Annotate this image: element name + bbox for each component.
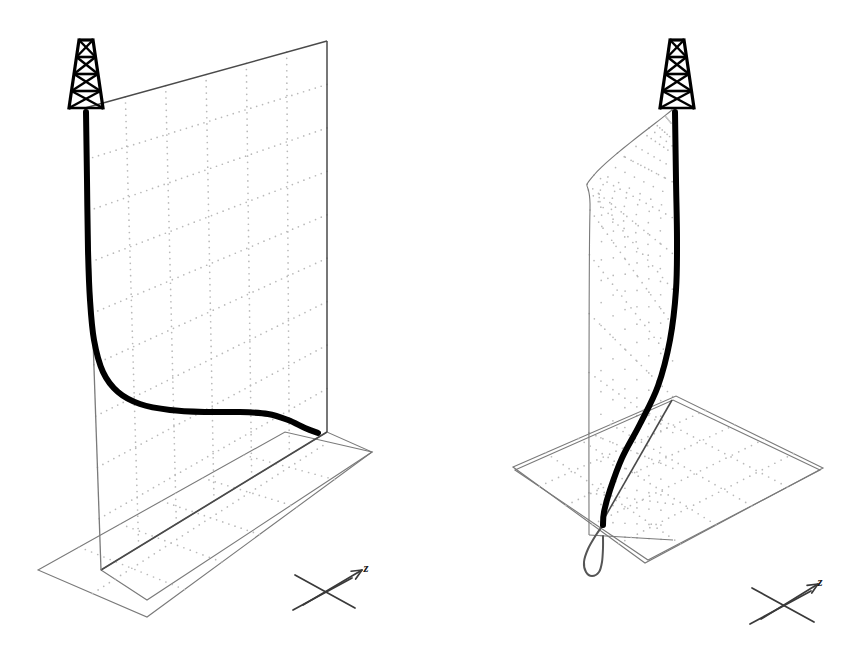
grid-dot (613, 257, 615, 259)
grid-dot (639, 199, 641, 201)
grid-dot (178, 325, 180, 327)
grid-dot (628, 434, 630, 436)
grid-dot (286, 76, 288, 78)
grid-dot (207, 154, 209, 156)
grid-dot (755, 472, 757, 474)
grid-dot (94, 208, 96, 210)
grid-dot (168, 208, 170, 210)
grid-dot (757, 442, 759, 444)
grid-dot (580, 476, 582, 478)
grid-dot (103, 556, 105, 558)
grid-dot (277, 500, 279, 502)
grid-dot (253, 532, 255, 534)
grid-dot (134, 429, 136, 431)
grid-dot (165, 110, 167, 112)
grid-dot (264, 286, 266, 288)
grid-dot (168, 429, 170, 431)
grid-dot (591, 524, 593, 526)
grid-dot (127, 176, 129, 178)
grid-dot (663, 146, 665, 148)
grid-dot (146, 190, 148, 192)
grid-dot (669, 136, 671, 138)
grid-dot (706, 467, 708, 469)
grid-dot (612, 420, 614, 422)
grid-dot (288, 312, 290, 314)
grid-dot (145, 140, 147, 142)
grid-dot (209, 253, 211, 255)
grid-dot (647, 254, 649, 256)
grid-dot (600, 302, 602, 304)
grid-dot (648, 291, 650, 293)
grid-dot (171, 584, 173, 586)
grid-dot (646, 370, 648, 372)
grid-dot (146, 440, 148, 442)
grid-dot (616, 427, 618, 429)
grid-dot (328, 441, 330, 443)
grid-dot (252, 291, 254, 293)
grid-dot (249, 347, 251, 349)
grid-dot (243, 495, 245, 497)
grid-dot (643, 229, 645, 231)
grid-dot (286, 58, 288, 60)
grid-dot (173, 426, 175, 428)
grid-dot (624, 540, 626, 542)
grid-dot (150, 138, 152, 140)
grid-dot (163, 184, 165, 186)
grid-dot (268, 193, 270, 195)
grid-dot (293, 362, 295, 364)
grid-dot (644, 167, 646, 169)
grid-dot (266, 331, 268, 333)
grid-dot (690, 445, 692, 447)
grid-dot (222, 353, 224, 355)
grid-dot (630, 307, 632, 309)
grid-dot (251, 471, 253, 473)
grid-dot (116, 353, 118, 355)
grid-dot (205, 361, 207, 363)
grid-dot (658, 210, 660, 212)
grid-dot (649, 331, 651, 333)
grid-dot (287, 212, 289, 214)
grid-dot (251, 452, 253, 454)
grid-dot (659, 143, 661, 145)
grid-dot (247, 192, 249, 194)
grid-dot (120, 575, 122, 577)
grid-dot (147, 239, 149, 241)
grid-dot (208, 203, 210, 205)
grid-dot (182, 226, 184, 228)
grid-dot (124, 248, 126, 250)
grid-dot (737, 482, 739, 484)
grid-dot (246, 87, 248, 89)
grid-dot (172, 387, 174, 389)
grid-dot (136, 472, 138, 474)
grid-dot (611, 203, 613, 205)
grid-dot (282, 368, 284, 370)
grid-dot (249, 353, 251, 355)
grid-dot (288, 367, 290, 369)
grid-dot (288, 448, 290, 450)
grid-dot (247, 217, 249, 219)
grid-dot (206, 135, 208, 137)
grid-dot (286, 126, 288, 128)
grid-dot (171, 319, 173, 321)
grid-dot (227, 115, 229, 117)
grid-dot (115, 149, 117, 151)
grid-dot (211, 364, 213, 366)
grid-dot (249, 372, 251, 374)
grid-dot (209, 290, 211, 292)
grid-dot (256, 151, 258, 153)
grid-dot (229, 302, 231, 304)
grid-dot (283, 470, 285, 472)
grid-dot (693, 504, 695, 506)
grid-dot (626, 497, 628, 499)
grid-dot (260, 484, 262, 486)
grid-dot (140, 192, 142, 194)
grid-dot (653, 156, 655, 158)
grid-dot (240, 250, 242, 252)
grid-dot (191, 126, 193, 128)
grid-dot (624, 273, 626, 275)
grid-dot (211, 407, 213, 409)
grid-dot (202, 477, 204, 479)
grid-dot (668, 535, 670, 537)
grid-dot (206, 264, 208, 266)
grid-dot (598, 521, 600, 523)
